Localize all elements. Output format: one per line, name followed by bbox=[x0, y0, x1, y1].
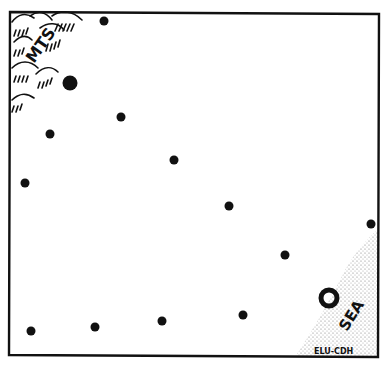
point-dot bbox=[46, 130, 55, 139]
credit-label: ELU-CDH bbox=[314, 347, 353, 356]
point-dot bbox=[367, 220, 376, 229]
point-dot bbox=[225, 202, 234, 211]
map-diagram: MTS SEA ELU-CDH bbox=[0, 0, 389, 372]
point-dot bbox=[117, 113, 126, 122]
point-dot bbox=[91, 323, 100, 332]
point-large-dot bbox=[63, 76, 78, 91]
point-dot bbox=[21, 179, 30, 188]
settlement-points bbox=[21, 17, 376, 336]
point-dot bbox=[170, 156, 179, 165]
point-dot bbox=[281, 251, 290, 260]
point-dot bbox=[100, 17, 109, 26]
point-dot bbox=[27, 327, 36, 336]
point-dot bbox=[239, 311, 248, 320]
point-dot bbox=[158, 317, 167, 326]
port-ring-icon bbox=[321, 290, 337, 306]
